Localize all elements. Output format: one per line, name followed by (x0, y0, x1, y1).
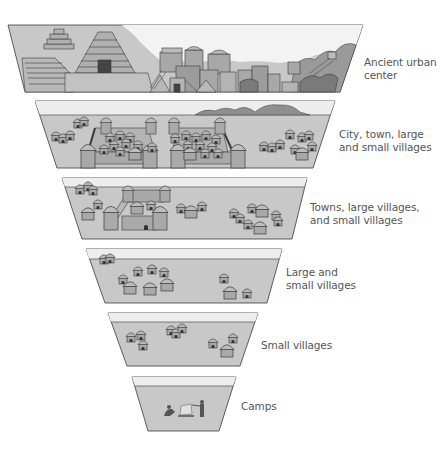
settlement-hierarchy-diagram: Ancient urban center City, town, large a… (0, 0, 443, 452)
tier-label-camps: Camps (241, 400, 277, 413)
label-line: Large and (286, 266, 356, 279)
tier-ancient-urban-center (8, 25, 363, 92)
tier-camps (132, 377, 236, 431)
tier-label-towns-villages: Towns, large villages, and small village… (310, 201, 420, 227)
tier-label-small-villages: Small villages (261, 339, 332, 352)
tier-label-ancient-urban-center: Ancient urban center (364, 56, 437, 82)
tier-large-small-villages (86, 249, 282, 303)
tier-small-villages (108, 313, 258, 366)
label-line: Camps (241, 400, 277, 413)
tier-towns-villages (62, 178, 307, 239)
tier-label-city-town-villages: City, town, large and small villages (339, 128, 432, 154)
label-line: center (364, 69, 437, 82)
label-line: and small villages (310, 214, 420, 227)
label-line: Towns, large villages, (310, 201, 420, 214)
tier-label-large-small-villages: Large and small villages (286, 266, 356, 292)
label-line: City, town, large (339, 128, 432, 141)
label-line: small villages (286, 279, 356, 292)
label-line: Ancient urban (364, 56, 437, 69)
label-line: Small villages (261, 339, 332, 352)
label-line: and small villages (339, 141, 432, 154)
tier-city-town-villages (35, 101, 335, 168)
